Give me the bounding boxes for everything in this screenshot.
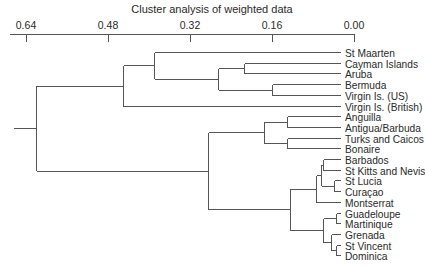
dendrogram-plot bbox=[0, 0, 424, 268]
